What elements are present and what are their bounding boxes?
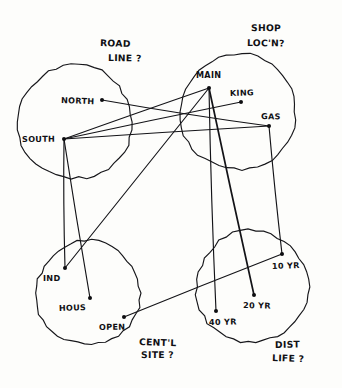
node-label-ind: IND [43,273,60,283]
group-label-centl-site-line2: SITE ? [141,349,174,360]
group-label-shop-locn-line1: SHOP [251,22,281,33]
node-label-yr20: 20 YR [243,300,271,311]
node-dot-south[interactable] [62,137,66,141]
node-label-south: SOUTH [22,134,55,144]
group-label-dist-life-line1: DIST [275,338,301,350]
group-label-dist-life-line2: LIFE ? [272,352,305,364]
edges-layer [64,88,282,317]
node-label-gas: GAS [261,111,281,122]
sketch-canvas: NORTHSOUTHMAINKINGGASINDHOUSOPEN10 YR20 … [0,0,342,388]
node-dot-yr10[interactable] [280,252,284,256]
node-dot-main[interactable] [207,86,211,90]
edge-main-yr40 [209,88,216,311]
node-dot-king[interactable] [239,100,243,104]
group-label-centl-site-line1: CENT'L [139,336,177,348]
node-dot-gas[interactable] [267,124,271,128]
node-label-yr40: 40 YR [209,316,237,327]
edge-south-ind [64,139,65,268]
node-dot-open[interactable] [122,315,126,319]
edge-gas-yr10 [269,126,282,254]
node-dot-yr20[interactable] [252,293,256,297]
node-dot-hous[interactable] [88,296,92,300]
group-label-road-line-line2: LINE ? [108,52,142,63]
node-label-north: NORTH [61,95,95,106]
node-label-main: MAIN [196,70,221,80]
edge-main-yr20 [209,88,254,295]
node-label-hous: HOUS [59,302,87,313]
edge-south-hous [64,139,90,298]
node-label-open: OPEN [99,322,126,332]
group-label-shop-locn-line2: LOC'N? [247,37,285,49]
diagram-svg: NORTHSOUTHMAINKINGGASINDHOUSOPEN10 YR20 … [0,0,342,388]
node-label-king: KING [230,87,254,98]
node-dot-ind[interactable] [63,266,67,270]
group-label-road-line-line1: ROAD [100,37,131,49]
node-dot-north[interactable] [100,98,104,102]
node-label-yr10: 10 YR [272,260,300,271]
node-dot-yr40[interactable] [214,309,218,313]
